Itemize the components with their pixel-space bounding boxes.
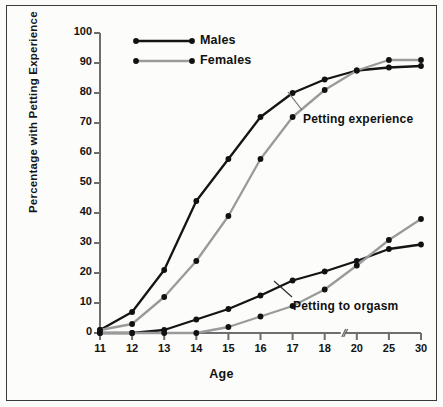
data-point [193, 330, 199, 336]
data-point [226, 306, 232, 312]
data-point [290, 278, 296, 284]
data-point [226, 324, 232, 330]
y-tick-label-20: 20 [54, 265, 92, 277]
data-point [322, 269, 328, 275]
data-point [226, 156, 232, 162]
y-tick-label-70: 70 [54, 115, 92, 127]
y-tick-label-60: 60 [54, 145, 92, 157]
legend-marker [189, 58, 195, 64]
y-tick-label-50: 50 [54, 175, 92, 187]
data-point [418, 57, 424, 63]
data-point [354, 68, 360, 74]
data-series-group [97, 57, 424, 336]
y-tick-label-40: 40 [54, 205, 92, 217]
annotation-petting-to-orgasm: Petting to orgasm [293, 299, 398, 313]
data-point [386, 237, 392, 243]
data-point [258, 314, 264, 320]
data-point [386, 246, 392, 252]
y-tick-label-80: 80 [54, 85, 92, 97]
data-point [161, 330, 167, 336]
series-petting-experience-males [97, 63, 424, 333]
y-tick-label-90: 90 [54, 55, 92, 67]
data-point [226, 213, 232, 219]
chart-figure: Percentage with Petting Experience Age 0… [0, 0, 443, 407]
legend-marker [133, 58, 139, 64]
axis-ticks [94, 33, 421, 340]
legend-marker [133, 38, 139, 44]
data-point [161, 267, 167, 273]
series-petting-to-orgasm-females [97, 216, 424, 336]
data-point [418, 63, 424, 69]
data-point [322, 77, 328, 83]
data-point [193, 317, 199, 323]
data-point [129, 330, 135, 336]
legend-label-females: Females [200, 53, 251, 67]
data-point [258, 293, 264, 299]
data-point [193, 198, 199, 204]
data-point [386, 65, 392, 71]
data-point [322, 87, 328, 93]
data-point [258, 114, 264, 120]
data-point [418, 216, 424, 222]
data-point [418, 242, 424, 248]
y-tick-label-0: 0 [54, 325, 92, 337]
y-tick-label-10: 10 [54, 295, 92, 307]
y-tick-label-30: 30 [54, 235, 92, 247]
data-point [322, 287, 328, 293]
series-petting-experience-females [97, 57, 424, 333]
data-point [290, 114, 296, 120]
y-tick-label-100: 100 [54, 25, 92, 37]
data-point [258, 156, 264, 162]
annotation-petting-experience: Petting experience [303, 112, 413, 126]
data-point [354, 263, 360, 269]
data-point [129, 309, 135, 315]
legend-label-males: Males [200, 33, 236, 47]
series-petting-to-orgasm-males [97, 242, 424, 336]
data-point [193, 258, 199, 264]
legend-marker [189, 38, 195, 44]
data-point [161, 294, 167, 300]
x-tick-label-30: 30 [401, 342, 441, 354]
data-point [129, 321, 135, 327]
legend-swatches [133, 38, 195, 64]
data-point [386, 57, 392, 63]
data-point [97, 330, 103, 336]
